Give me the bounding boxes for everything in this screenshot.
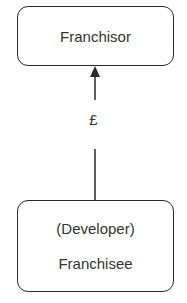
franchisee-node: (Developer) Franchisee bbox=[17, 200, 174, 292]
franchisee-label: Franchisee bbox=[58, 255, 132, 272]
developer-label: (Developer) bbox=[56, 220, 134, 237]
payment-label: £ bbox=[0, 111, 187, 128]
